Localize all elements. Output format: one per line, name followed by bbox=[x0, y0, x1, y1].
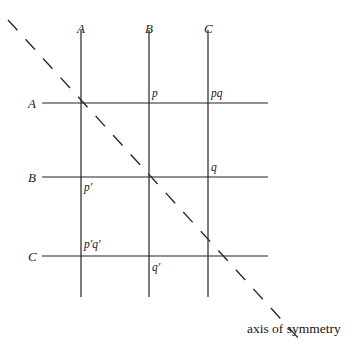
column-header-a: A bbox=[77, 22, 85, 35]
column-header-b: B bbox=[145, 22, 153, 35]
point-label-pq: pq bbox=[211, 88, 223, 100]
point-label-q-prime: q′ bbox=[152, 262, 160, 274]
symmetry-diagram bbox=[0, 0, 358, 348]
row-header-a: A bbox=[28, 97, 36, 110]
point-label-p: p bbox=[152, 88, 158, 100]
axis-of-symmetry-line bbox=[8, 20, 300, 340]
row-header-b: B bbox=[28, 171, 36, 184]
vertical-grid-lines bbox=[81, 30, 208, 297]
horizontal-grid-lines bbox=[42, 103, 268, 256]
point-label-p-prime: p′ bbox=[84, 182, 92, 194]
axis-of-symmetry-caption: axis of symmetry bbox=[247, 322, 341, 336]
column-header-c: C bbox=[204, 22, 213, 35]
point-label-pq-prime: p′q′ bbox=[84, 239, 101, 251]
point-label-q: q bbox=[211, 162, 217, 174]
row-header-c: C bbox=[28, 250, 37, 263]
